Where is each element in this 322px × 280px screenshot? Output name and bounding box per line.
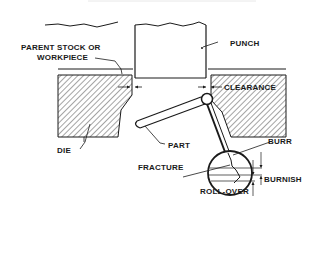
label-parent-stock-line1: PARENT STOCK OR bbox=[21, 43, 101, 52]
label-fracture: FRACTURE bbox=[138, 163, 184, 172]
label-roll-over: ROLL-OVER bbox=[200, 187, 249, 196]
label-part: PART bbox=[168, 141, 190, 150]
part-leader bbox=[145, 126, 165, 144]
part-shape bbox=[136, 94, 213, 129]
label-clearance: CLEARANCE bbox=[224, 83, 276, 92]
label-punch: PUNCH bbox=[230, 39, 259, 48]
label-parent-stock-line2: WORKPIECE bbox=[37, 53, 88, 62]
label-die: DIE bbox=[57, 146, 71, 155]
punch-body bbox=[135, 22, 206, 78]
punching-diagram: PARENT STOCK OR WORKPIECE PUNCH CLEARANC… bbox=[0, 0, 322, 280]
label-burnish: BURNISH bbox=[264, 175, 302, 184]
die-left bbox=[58, 75, 132, 137]
burr-leader bbox=[233, 142, 270, 155]
punch-leader bbox=[203, 42, 218, 47]
stock-leader bbox=[95, 58, 121, 69]
label-burr: BURR bbox=[268, 137, 292, 146]
